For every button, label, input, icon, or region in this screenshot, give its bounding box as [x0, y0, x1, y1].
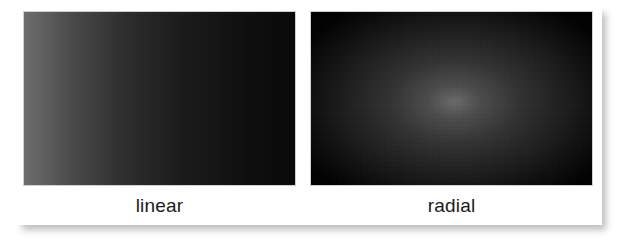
radial-gradient-caption: radial	[310, 186, 593, 225]
radial-gradient-swatch	[310, 11, 593, 186]
linear-gradient-caption: linear	[23, 186, 296, 225]
gradient-comparison-figure: linear radial	[0, 0, 627, 242]
caption-row: linear radial	[14, 186, 602, 225]
linear-gradient-swatch	[23, 11, 296, 186]
figure-card: linear radial	[14, 4, 602, 225]
linear-gradient-fill	[24, 12, 295, 185]
swatch-row	[14, 4, 602, 186]
radial-gradient-fill	[311, 12, 592, 185]
